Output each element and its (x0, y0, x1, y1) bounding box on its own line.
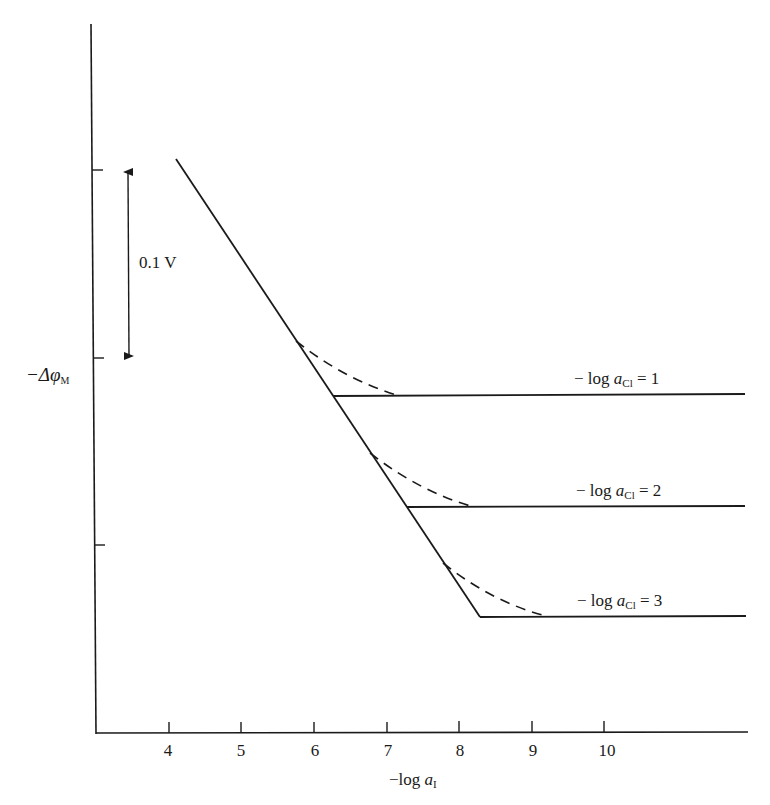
dashed-curve-1 (296, 341, 400, 396)
y-label-delta: −Δ (26, 364, 50, 385)
scale-double-arrow-icon (128, 172, 129, 356)
x-tick-label-6: 6 (311, 741, 320, 761)
curve-label-3-sub: Cl (625, 599, 635, 611)
curve-label-3: − log aCl = 3 (577, 591, 662, 611)
y-label-sub: M (61, 375, 70, 386)
curve-label-2-sub: Cl (624, 489, 634, 501)
curve-label-1-sub: Cl (622, 377, 632, 389)
curve-label-2: − log aCl = 2 (576, 481, 661, 501)
x-tick-label-4: 4 (164, 741, 173, 761)
plateau-line-2 (407, 506, 745, 507)
curve-label-1: − log aCl = 1 (574, 369, 659, 389)
nernstian-slope-line (176, 159, 480, 617)
y-axis (91, 24, 96, 734)
chart-canvas (0, 0, 770, 805)
plateau-line-3 (480, 616, 746, 617)
x-tick-label-9: 9 (529, 741, 538, 761)
x-label-sub: I (433, 778, 437, 790)
curve-label-2-eq: = 2 (635, 481, 662, 500)
curve-label-2-prefix: − log (576, 481, 616, 500)
x-tick-label-7: 7 (384, 741, 393, 761)
curve-label-1-eq: = 1 (633, 369, 660, 388)
dashed-curve-3 (443, 563, 546, 616)
scale-label: 0.1 V (139, 253, 176, 273)
y-axis-label: −ΔφM (26, 364, 69, 386)
plateau-line-1 (333, 394, 745, 396)
x-axis-label: −log aI (389, 770, 437, 790)
x-tick-label-8: 8 (456, 741, 465, 761)
y-label-phi: φ (50, 364, 61, 385)
x-tick-label-10: 10 (599, 741, 616, 761)
x-label-prefix: −log (389, 770, 425, 789)
curve-label-3-prefix: − log (577, 591, 617, 610)
x-label-var: a (425, 770, 434, 789)
x-axis (96, 732, 748, 733)
x-ticks (169, 721, 604, 733)
dashed-curve-2 (370, 453, 474, 507)
curve-label-1-prefix: − log (574, 369, 614, 388)
x-tick-label-5: 5 (237, 741, 246, 761)
curve-label-3-eq: = 3 (636, 591, 663, 610)
